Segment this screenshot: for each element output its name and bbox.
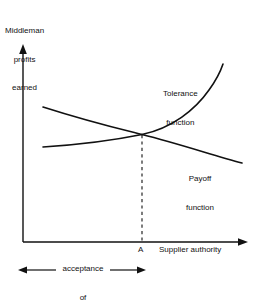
payoff-label-line1: Payoff — [186, 174, 214, 184]
tolerance-label-line1: Tolerance — [163, 89, 198, 99]
zone-right-arrowhead — [137, 267, 146, 274]
tolerance-function-label: Tolerance function — [163, 70, 198, 146]
zone-label: Zone of — [62, 245, 104, 304]
y-axis-label: Middleman profits earned — [5, 7, 44, 112]
acceptance-label: acceptance — [56, 264, 110, 274]
y-axis-label-line2: profits — [5, 55, 44, 65]
tolerance-label-line2: function — [163, 118, 198, 128]
payoff-function-label: Payoff function — [186, 155, 214, 231]
x-axis-arrowhead — [238, 238, 248, 246]
y-axis-label-line3: earned — [5, 83, 44, 93]
zone-left-arrowhead — [18, 267, 27, 274]
point-a-label: A — [138, 245, 143, 255]
x-axis-label: Supplier authority — [159, 245, 221, 255]
y-axis-label-line1: Middleman — [5, 26, 44, 36]
zone-label-line2: of — [62, 293, 104, 303]
payoff-label-line2: function — [186, 203, 214, 213]
